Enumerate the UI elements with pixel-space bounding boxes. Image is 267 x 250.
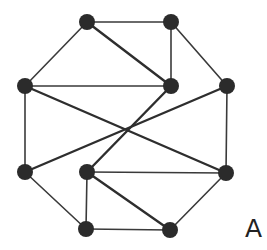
node-TL bbox=[79, 14, 95, 30]
node-IU bbox=[163, 78, 179, 94]
edge-LL-BL bbox=[25, 172, 86, 229]
edge-RL-BR bbox=[170, 173, 226, 230]
node-BR bbox=[162, 222, 178, 238]
edge-TL-LU bbox=[25, 22, 87, 86]
edge-TR-RU bbox=[171, 22, 227, 86]
edge-IL-RL bbox=[87, 172, 226, 173]
edge-IL-BL bbox=[86, 172, 87, 229]
node-TR bbox=[163, 14, 179, 30]
node-LU bbox=[17, 78, 33, 94]
node-IL bbox=[79, 164, 95, 180]
edge-RU-RL bbox=[226, 86, 227, 173]
node-RL bbox=[218, 165, 234, 181]
graph-diagram bbox=[0, 0, 267, 250]
edge-IU-IL bbox=[87, 86, 171, 172]
nodes-group bbox=[17, 14, 235, 238]
edges-group bbox=[25, 22, 227, 230]
edge-BL-BR bbox=[86, 229, 170, 230]
node-BL bbox=[78, 221, 94, 237]
node-LL bbox=[17, 164, 33, 180]
node-RU bbox=[219, 78, 235, 94]
edge-IL-BR bbox=[87, 172, 170, 230]
figure-label: A bbox=[245, 216, 262, 241]
edge-TL-IU bbox=[87, 22, 171, 86]
